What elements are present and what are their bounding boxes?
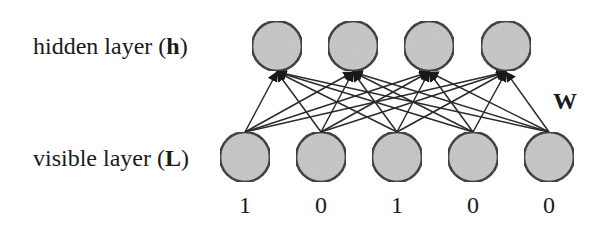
edge-v4-h1 <box>277 72 473 132</box>
hidden-node-h4 <box>481 21 531 71</box>
visible-value-v2: 0 <box>315 192 327 218</box>
hidden-layer-label: hidden layer (h) <box>33 33 188 59</box>
weight-edges <box>245 72 549 132</box>
visible-node-v4 <box>448 132 498 182</box>
visible-value-v1: 1 <box>239 192 251 218</box>
visible-node-v1 <box>220 132 270 182</box>
visible-layer-nodes <box>220 132 574 182</box>
hidden-node-h3 <box>404 21 454 71</box>
visible-node-v5 <box>524 132 574 182</box>
hidden-layer-nodes <box>252 21 531 71</box>
edge-v5-h4 <box>506 72 549 132</box>
edge-v5-h2 <box>353 72 549 132</box>
visible-values: 10100 <box>239 192 555 218</box>
visible-node-v2 <box>296 132 346 182</box>
visible-value-v4: 0 <box>467 192 479 218</box>
weights-label: W <box>553 88 577 114</box>
visible-value-v5: 0 <box>543 192 555 218</box>
visible-node-v3 <box>372 132 422 182</box>
hidden-node-h1 <box>252 21 302 71</box>
visible-value-v3: 1 <box>391 192 403 218</box>
hidden-node-h2 <box>328 21 378 71</box>
rbm-diagram: 10100 hidden layer (h) visible layer (L)… <box>0 0 610 234</box>
visible-layer-label: visible layer (L) <box>33 145 189 171</box>
